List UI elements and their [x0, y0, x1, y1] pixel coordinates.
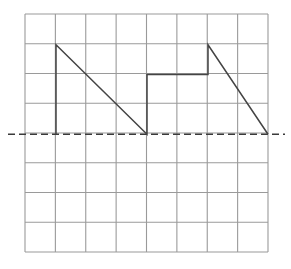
waveform-figure	[0, 0, 291, 269]
figure-root	[0, 0, 291, 269]
